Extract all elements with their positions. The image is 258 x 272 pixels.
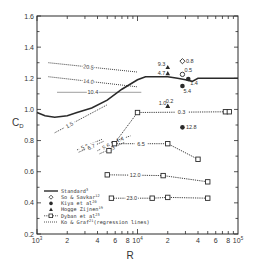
x-tick-label: 2 (65, 237, 69, 244)
hogge-zijnen-marker (165, 65, 170, 69)
x-axis-title: R (126, 250, 133, 261)
y-axis-title: CD (12, 117, 24, 129)
legend-swatch-filled-circle (49, 202, 53, 206)
dyban-square-marker (166, 195, 170, 199)
hogge-zijnen-label: 4.7 (158, 70, 166, 76)
hogge-zijnen-label: 9.3 (158, 61, 166, 67)
dyban-square-marker (206, 196, 210, 200)
ko-graf-label: 14.0 (83, 78, 94, 85)
dyban-label: 0.3 (178, 109, 186, 115)
hogge-zijnen-marker (165, 71, 170, 75)
y-tick-label: 0.6 (24, 168, 34, 175)
y-tick-label: 1.0 (24, 106, 34, 113)
kiya-label: 1.4 (190, 80, 198, 86)
x-tick-label: 4 (196, 237, 200, 244)
so-savkar-diamond-marker (180, 59, 185, 64)
x-tick-label: 103 (32, 236, 43, 244)
dyban-square-marker (107, 148, 111, 152)
dyban-square-marker (227, 110, 231, 114)
dyban-label: 23.0 (126, 195, 137, 201)
x-tick-label: 4 (96, 237, 100, 244)
legend-label: Ko & Graf21(regression lines) (61, 219, 150, 226)
hogge-zijnen-label: 0.2 (166, 98, 174, 104)
dyban-square-marker (150, 196, 154, 200)
y-tick-label: 1.4 (24, 44, 34, 51)
legend-swatch-diamond (49, 195, 53, 199)
legend-label: Standard3 (61, 188, 88, 194)
dyban-square-marker (206, 180, 210, 184)
dyban-square-marker (166, 141, 170, 145)
x-tick-label: 105 (233, 236, 244, 244)
dyban-label: 6.5 (137, 141, 145, 147)
axes: 0.20.40.60.81.01.21.41.61032468104246810… (24, 13, 243, 245)
dyban-line (115, 144, 199, 160)
x-tick-label: 8 (126, 237, 130, 244)
legend-item-ko-graf: Ko & Graf21(regression lines) (44, 219, 150, 226)
drag-coefficient-chart: 0.20.40.60.81.01.21.41.61032468104246810… (0, 0, 258, 272)
dyban-square-marker (161, 173, 165, 177)
legend-item-standard: Standard3 (44, 188, 88, 194)
y-tick-label: 1.2 (24, 75, 34, 82)
kiya-marker (180, 125, 185, 130)
ko-graf-line (55, 105, 108, 133)
dyban-label: 12.0 (130, 172, 141, 178)
legend: Standard3So & Savkar12Kiya et al20Hogge … (44, 188, 150, 226)
x-tick-label: 6 (113, 237, 117, 244)
ko-graf-label: 20.5 (83, 63, 94, 70)
dyban-square-marker (112, 141, 116, 145)
legend-label: So & Savkar12 (61, 194, 100, 200)
y-tick-label: 0.8 (24, 137, 34, 144)
y-tick-label: 1.6 (24, 13, 34, 20)
x-tick-label: 104 (132, 236, 143, 244)
plot-area: 20.514.010.41.55.66.71.45.64.30.36.512.0… (37, 58, 238, 201)
dyban-square-marker (105, 173, 109, 177)
so-savkar-label: 0.8 (186, 58, 194, 64)
x-tick-label: 6 (214, 237, 218, 244)
dyban-square-marker (109, 196, 113, 200)
legend-item-so-savkar: So & Savkar12 (49, 194, 100, 200)
kiya-label: 5.4 (183, 88, 191, 94)
kiya-label: 12.8 (186, 124, 197, 130)
x-tick-label: 8 (226, 237, 230, 244)
dyban-square-marker (196, 157, 200, 161)
dyban-line (107, 175, 208, 182)
dyban-square-marker (135, 110, 139, 114)
legend-swatch-triangle (49, 208, 53, 211)
x-tick-label: 2 (166, 237, 170, 244)
legend-swatch-square (49, 214, 53, 218)
y-tick-label: 0.4 (24, 199, 34, 206)
so-savkar-label: 0.5 (184, 67, 192, 73)
ko-graf-label: 10.4 (87, 89, 98, 95)
